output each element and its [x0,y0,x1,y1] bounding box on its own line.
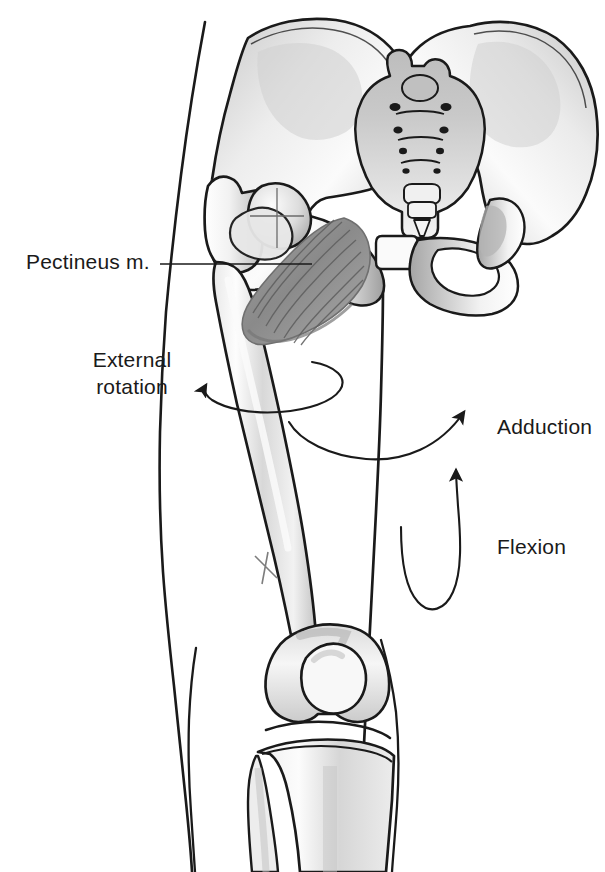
sacral-foramen-l4 [402,168,409,174]
sacral-foramen-r4 [433,168,440,174]
sacral-foramen-l2 [393,126,402,133]
coccyx-segment-2 [408,202,436,218]
sacral-promontory [402,75,438,101]
label-flexion: Flexion [497,533,566,560]
flexion-arrow [401,470,460,609]
label-external-rotation-line1: External [93,348,172,371]
skin-outline-thigh [160,22,205,872]
sacral-foramen-r1 [441,103,452,111]
sacral-foramen-r3 [436,148,444,154]
sacral-foramen-l1 [390,103,401,111]
label-adduction: Adduction [497,413,592,440]
label-pectineus: Pectineus m. [26,248,150,275]
knee-joint-space [266,722,390,738]
adduction-arrow [289,412,464,459]
lower-leg-group [248,740,394,872]
label-external-rotation-line2: rotation [96,375,168,398]
sacral-foramen-l3 [399,148,407,154]
coccyx [404,184,440,204]
anatomical-illustration: Pectineus m. Externalrotation Adduction … [0,0,605,872]
pelvis-group [208,19,597,316]
sacral-foramen-r2 [439,126,448,133]
label-external-rotation: Externalrotation [84,346,180,400]
